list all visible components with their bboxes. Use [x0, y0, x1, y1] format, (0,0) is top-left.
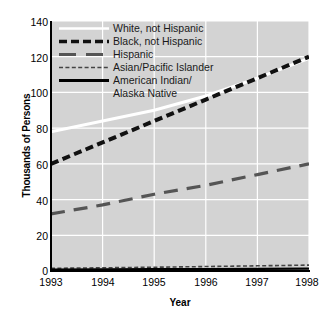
x-tick-1994: 1994	[81, 276, 125, 288]
legend-label-hispanic: Hispanic	[113, 48, 153, 61]
x-tick-1995: 1995	[132, 276, 176, 288]
x-tick-1993: 1993	[29, 276, 73, 288]
legend-label-alaska-native: Alaska Native	[57, 87, 177, 100]
y-tick-40: 40	[8, 196, 48, 206]
y-axis-line	[50, 21, 52, 272]
series-line-2	[51, 164, 309, 214]
y-tick-80: 80	[8, 124, 48, 134]
y-tick-20: 20	[8, 231, 48, 241]
legend-label-american-indian: American Indian/	[113, 74, 192, 87]
legend-entry-alaska-native-line2: Alaska Native	[57, 87, 257, 100]
solid-black-line-swatch	[57, 74, 113, 87]
legend-label-black-not-hispanic: Black, not Hispanic	[113, 35, 202, 48]
x-tick-1997: 1997	[235, 276, 279, 288]
line-chart-figure: Thousands of Persons 140 120 100 80 60 4…	[0, 0, 323, 319]
y-tick-100: 100	[8, 88, 48, 98]
fine-dashed-line-swatch	[57, 61, 113, 74]
legend-entry-white-not-hispanic: White, not Hispanic	[57, 22, 257, 35]
solid-white-line-swatch	[57, 22, 113, 35]
x-axis-line	[51, 270, 310, 272]
y-tick-120: 120	[8, 53, 48, 63]
x-tick-1996: 1996	[184, 276, 228, 288]
x-axis-title: Year	[51, 297, 309, 308]
y-tick-60: 60	[8, 160, 48, 170]
chart-legend: White, not Hispanic Black, not Hispanic …	[57, 22, 257, 100]
legend-entry-hispanic: Hispanic	[57, 48, 257, 61]
legend-label-white-not-hispanic: White, not Hispanic	[113, 22, 203, 35]
black-dashed-line-swatch	[57, 35, 113, 48]
y-axis-tick-labels: 140 120 100 80 60 40 20 0	[4, 0, 48, 319]
x-tick-1998: 1998	[285, 276, 323, 288]
legend-label-asian-pacific-islander: Asian/Pacific Islander	[113, 61, 213, 74]
legend-entry-black-not-hispanic: Black, not Hispanic	[57, 35, 257, 48]
gray-dashed-line-swatch	[57, 48, 113, 61]
legend-entry-american-indian-alaska-native: American Indian/	[57, 74, 257, 87]
legend-entry-asian-pacific-islander: Asian/Pacific Islander	[57, 61, 257, 74]
y-tick-0: 0	[8, 266, 48, 276]
y-tick-140: 140	[8, 17, 48, 27]
